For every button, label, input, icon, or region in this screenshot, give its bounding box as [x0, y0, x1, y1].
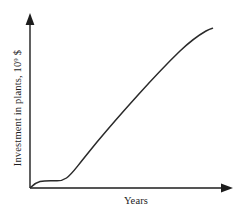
x-axis-label: Years — [124, 195, 148, 206]
y-axis-label-group: Investment in plants, 109 $ — [12, 50, 24, 166]
y-axis-label-currency: $ — [12, 50, 23, 55]
y-axis-label-main: Investment in plants, 10 — [12, 62, 23, 167]
line-chart-svg: Investment in plants, 109 $ Years — [0, 0, 252, 213]
chart-background — [0, 0, 252, 213]
y-axis-label: Investment in plants, 109 $ — [12, 50, 24, 166]
chart-figure: Investment in plants, 109 $ Years — [0, 0, 252, 213]
